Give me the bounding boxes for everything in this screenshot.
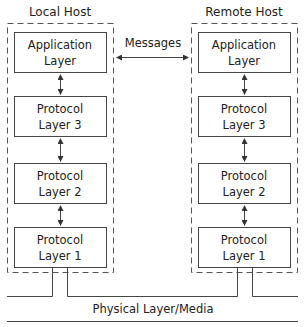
remote-host: Remote Host Application Layer Protocol L… [192,5,298,273]
svg-text:Layer 3: Layer 3 [38,118,81,132]
svg-text:Protocol: Protocol [37,233,83,247]
svg-text:Layer 3: Layer 3 [222,118,265,132]
svg-text:Layer 2: Layer 2 [222,185,265,199]
remote-protocol-layer-3: Protocol Layer 3 [199,97,291,137]
physical-media: Physical Layer/Media [7,268,298,322]
svg-text:Layer 1: Layer 1 [222,249,265,263]
protocol-stack-diagram: Local Host Application Layer Protocol La… [0,0,306,327]
svg-text:Protocol: Protocol [37,102,83,116]
svg-text:Layer: Layer [228,54,260,68]
messages-connector: Messages [117,36,188,58]
remote-protocol-layer-1: Protocol Layer 1 [199,228,291,268]
messages-label: Messages [125,36,181,50]
svg-text:Protocol: Protocol [37,169,83,183]
svg-text:Application: Application [28,38,92,52]
svg-text:Application: Application [212,38,276,52]
svg-text:Layer 1: Layer 1 [38,249,81,263]
local-protocol-layer-1: Protocol Layer 1 [15,228,107,268]
svg-text:Layer: Layer [44,54,76,68]
svg-text:Protocol: Protocol [221,233,267,247]
local-application-layer: Application Layer [15,33,107,73]
remote-application-layer: Application Layer [199,33,291,73]
svg-text:Protocol: Protocol [221,169,267,183]
local-host: Local Host Application Layer Protocol La… [8,5,114,273]
svg-text:Protocol: Protocol [221,102,267,116]
remote-protocol-layer-2: Protocol Layer 2 [199,164,291,204]
local-host-title: Local Host [29,5,92,19]
physical-label: Physical Layer/Media [93,302,214,316]
remote-host-title: Remote Host [205,5,283,19]
svg-text:Layer 2: Layer 2 [38,185,81,199]
local-protocol-layer-2: Protocol Layer 2 [15,164,107,204]
local-protocol-layer-3: Protocol Layer 3 [15,97,107,137]
